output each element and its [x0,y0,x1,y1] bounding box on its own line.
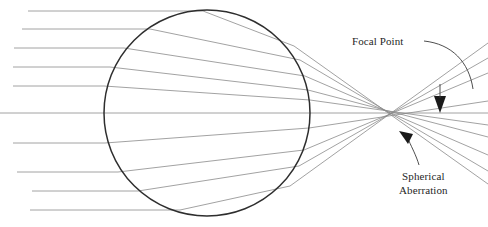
internal-ray-8 [138,166,299,191]
internal-ray-7 [118,150,304,172]
focal-point-leader-line [424,41,473,89]
spherical-aberration-arrow-icon [399,131,413,144]
spherical-aberration-diagram: Focal Point Spherical Aberration [0,0,488,227]
exit-ray-3 [305,76,488,155]
focal-point-label: Focal Point [352,35,404,48]
internal-ray-group [104,11,310,210]
incident-ray-group [0,11,203,210]
exit-ray-7 [304,73,488,150]
internal-ray-9 [180,186,290,210]
internal-ray-6 [105,128,309,143]
exit-ray-8 [299,58,488,166]
focal-point-annotation [424,41,473,113]
spherical-aberration-annotation [399,131,419,165]
spherical-aberration-label-line1: Spherical [399,169,448,183]
spherical-aberration-label-line2: Aberration [399,183,448,197]
exit-ray-4 [308,90,488,137]
exit-ray-6 [309,101,488,128]
exit-ray-group [290,43,488,186]
internal-ray-4 [110,67,308,90]
spherical-aberration-label: Spherical Aberration [399,169,448,197]
exit-ray-5 [310,100,488,125]
exit-ray-1 [294,46,488,184]
spherical-aberration-leader-line [409,141,419,165]
internal-ray-5 [104,86,310,100]
focal-point-arrow-icon [434,96,446,113]
